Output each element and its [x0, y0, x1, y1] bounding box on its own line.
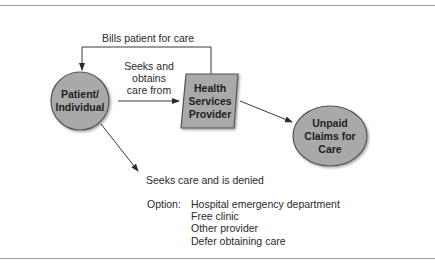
- node-patient-line1: Patient/: [51, 88, 109, 101]
- node-unpaid-label: Unpaid Claims for Care: [293, 117, 367, 156]
- option-item: Hospital emergency department: [191, 198, 340, 210]
- label-bills-patient: Bills patient for care: [102, 32, 194, 44]
- label-seeks-denied: Seeks care and is denied: [146, 174, 264, 186]
- label-seeks-obtains-line2: obtains: [116, 72, 182, 84]
- edge-seeks-denied: [101, 124, 138, 171]
- node-unpaid-line1: Unpaid: [293, 117, 367, 130]
- node-unpaid-line3: Care: [293, 143, 367, 156]
- options-items: Hospital emergency department Free clini…: [191, 198, 340, 247]
- option-item: Free clinic: [191, 210, 340, 222]
- node-provider-line1: Health: [182, 82, 238, 95]
- node-provider-line3: Provider: [182, 108, 238, 121]
- edge-provider-unpaid: [240, 101, 292, 122]
- node-patient-label: Patient/ Individual: [51, 88, 109, 114]
- node-patient-line2: Individual: [51, 101, 109, 114]
- label-seeks-obtains: Seeks and obtains care from: [116, 60, 182, 96]
- label-seeks-obtains-line3: care from: [116, 84, 182, 96]
- option-item: Other provider: [191, 222, 340, 234]
- label-seeks-obtains-line1: Seeks and: [116, 60, 182, 72]
- option-item: Defer obtaining care: [191, 235, 340, 247]
- node-provider-label: Health Services Provider: [182, 82, 238, 121]
- options-label: Option:: [147, 198, 181, 210]
- node-unpaid-line2: Claims for: [293, 130, 367, 143]
- node-provider-line2: Services: [182, 95, 238, 108]
